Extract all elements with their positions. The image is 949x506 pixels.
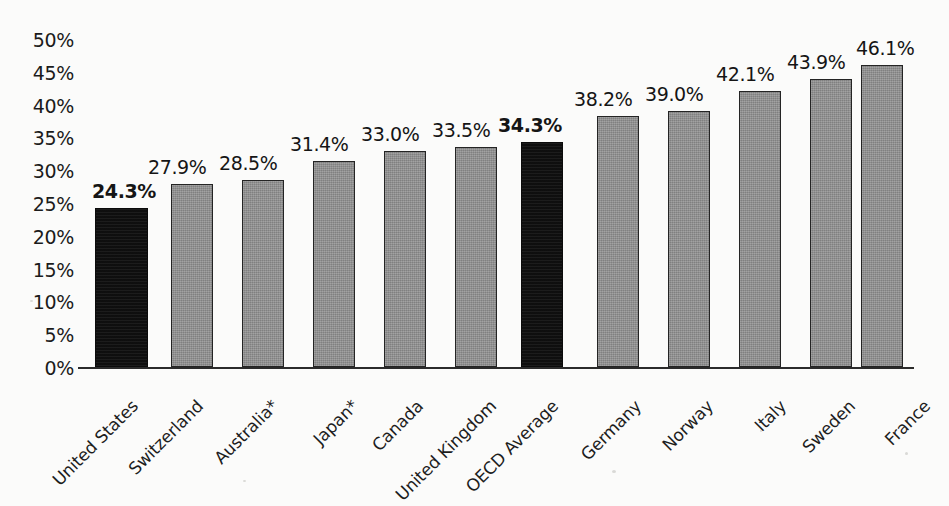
bar-chart: 50% 45% 40% 35% 30% 25% 20% 15% 10% 5% 0… (0, 0, 949, 506)
x-axis: United States Switzerland Australia* Jap… (0, 0, 949, 506)
